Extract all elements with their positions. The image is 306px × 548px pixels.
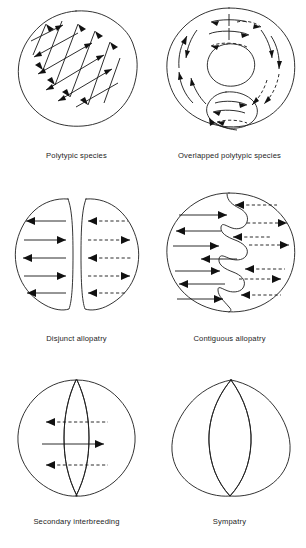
disjunct-allopatry-diagram — [0, 183, 153, 333]
overlapped-polytypic-species-diagram — [153, 0, 306, 150]
secondary-interbreeding-diagram — [0, 366, 153, 516]
panel-caption: Sympatry — [213, 517, 246, 527]
panel-secondary-interbreeding: Secondary interbreeding — [0, 366, 153, 548]
panel-caption: Disjunct allopatry — [46, 334, 107, 344]
right-dashed-arrows — [88, 217, 131, 297]
coincident-outline-left — [209, 380, 231, 496]
range-outline — [18, 11, 137, 126]
panel-polytypic-species: Polytypic species — [0, 0, 153, 183]
panel-disjunct-allopatry: Disjunct allopatry — [0, 183, 153, 366]
right-dashed-arrows — [233, 201, 289, 299]
speciation-figure: Polytypic species — [0, 0, 306, 548]
overlap-lens-left — [64, 380, 77, 496]
panel-sympatry: Sympatry — [153, 366, 306, 548]
right-range-outline — [76, 380, 135, 496]
left-solid-arrows — [173, 211, 237, 303]
range-outline-a — [172, 380, 231, 496]
sympatry-diagram — [153, 366, 306, 516]
inner-upper-blob — [207, 44, 254, 86]
panel-caption: Contiguous allopatry — [193, 334, 265, 344]
polytypic-species-diagram — [0, 0, 153, 150]
panel-overlapped-polytypic-species: Overlapped polytypic species — [153, 0, 306, 183]
gene-flow-arrows — [42, 418, 108, 469]
left-range-outline — [18, 380, 77, 496]
circulating-arrows — [178, 14, 282, 130]
panel-caption: Polytypic species — [46, 151, 107, 161]
coincident-outline-right — [230, 380, 251, 496]
gene-flow-arrows — [31, 21, 120, 107]
panel-contiguous-allopatry: Contiguous allopatry — [153, 183, 306, 366]
contiguous-allopatry-diagram — [153, 183, 306, 333]
outer-range-outline — [167, 8, 295, 127]
left-solid-arrows — [23, 217, 66, 297]
panel-caption: Secondary interbreeding — [33, 517, 119, 527]
overlap-lens-right — [76, 380, 89, 496]
range-outline — [167, 193, 295, 312]
range-outline-b — [230, 380, 290, 496]
panel-caption: Overlapped polytypic species — [178, 151, 281, 161]
